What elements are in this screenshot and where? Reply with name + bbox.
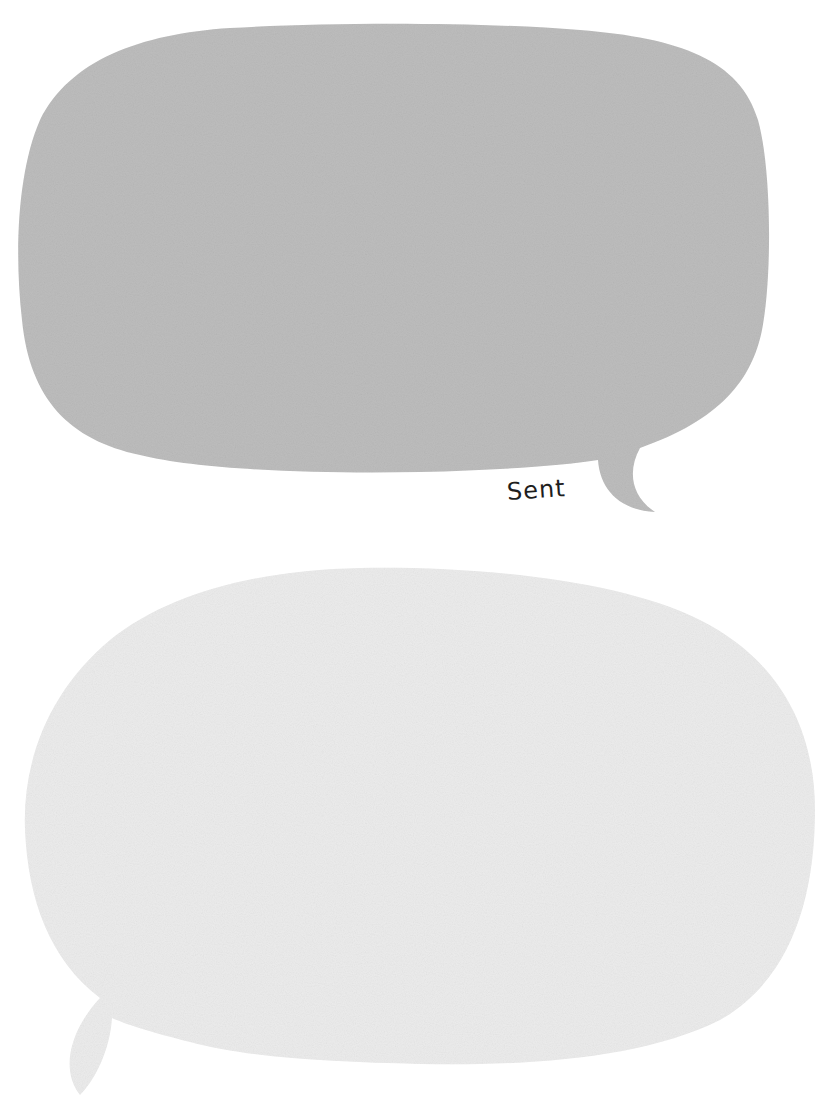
received-bubble — [25, 568, 815, 1095]
sent-bubble — [18, 24, 769, 512]
speech-bubbles-graphic — [0, 0, 819, 1098]
sent-status-label: Sent — [506, 474, 566, 506]
speech-bubbles-canvas: Sent — [0, 0, 819, 1098]
